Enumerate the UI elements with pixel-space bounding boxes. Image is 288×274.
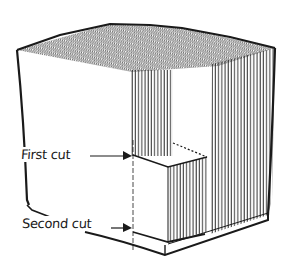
inner-back-face — [131, 70, 173, 156]
first-cut-arrow — [90, 151, 132, 160]
right-face — [210, 48, 275, 234]
cut-block — [133, 140, 207, 250]
second-cut-arrow — [111, 223, 132, 232]
first-cut-label: First cut — [18, 147, 72, 162]
second-cut-label: Second cut — [19, 216, 94, 231]
cut-diagram — [0, 0, 288, 274]
left-edge — [17, 50, 29, 205]
